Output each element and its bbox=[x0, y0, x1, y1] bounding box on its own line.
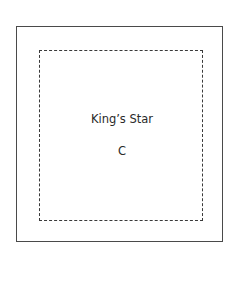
diagram-label: C bbox=[0, 144, 244, 158]
diagram-title: King’s Star bbox=[0, 112, 244, 126]
inner-dashed-frame bbox=[39, 50, 203, 221]
